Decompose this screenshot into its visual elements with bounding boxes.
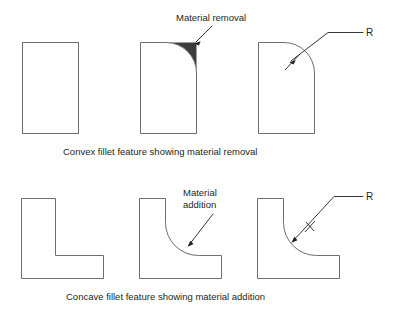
bottom-radius-label: R	[366, 191, 373, 202]
top-shape-dimensioned-rectangle	[259, 43, 315, 134]
fillet-diagram-canvas: Material removal R Convex fillet feature…	[0, 0, 395, 312]
top-annotation-label: Material removal	[176, 12, 246, 23]
top-row-caption: Convex fillet feature showing material r…	[63, 146, 257, 157]
bottom-row-caption: Concave fillet feature showing material …	[66, 291, 265, 302]
bottom-radius-leader	[293, 197, 363, 242]
fillet-diagram: Material removal R Convex fillet feature…	[0, 0, 395, 312]
bottom-shape-dimensioned-l-bracket	[258, 199, 340, 279]
top-radius-label: R	[366, 27, 373, 38]
bottom-shape-plain-l-bracket	[22, 199, 104, 279]
top-shape-plain-rectangle	[23, 43, 79, 134]
bottom-annotation-arrowhead	[188, 241, 194, 247]
bottom-annotation-label-line1: Material	[183, 187, 217, 198]
bottom-shape-filleted-l-bracket	[140, 199, 222, 279]
bottom-annotation-label-line2: addition	[183, 199, 216, 210]
top-annotation-leader	[196, 26, 212, 42]
bottom-annotation-leader	[189, 214, 213, 245]
top-shape-rounded-rectangle	[141, 43, 197, 134]
